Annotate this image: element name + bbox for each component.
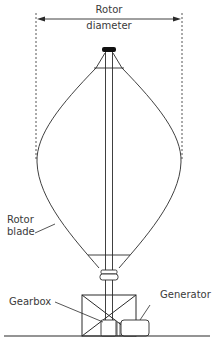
hub-coupling <box>100 270 118 280</box>
rotor-diameter-label: Rotor diameter <box>84 4 134 32</box>
rotor-diameter-line2: diameter <box>84 20 134 32</box>
gearbox-label: Gearbox <box>9 296 51 308</box>
rotor-blades <box>37 68 181 268</box>
generator-label: Generator <box>160 289 211 301</box>
rotor-blade-label: Rotor blade <box>7 214 35 238</box>
mast <box>106 52 113 336</box>
leader-lines <box>35 224 150 322</box>
generator-block <box>121 320 149 336</box>
top-struts <box>94 53 124 68</box>
gearbox-block <box>101 320 116 336</box>
rotor-blade-line2: blade <box>7 226 35 238</box>
top-cap <box>102 47 116 52</box>
rotor-blade-line1: Rotor <box>7 214 35 226</box>
rotor-diameter-dimension <box>36 13 182 160</box>
rotor-diameter-line1: Rotor <box>84 4 134 16</box>
